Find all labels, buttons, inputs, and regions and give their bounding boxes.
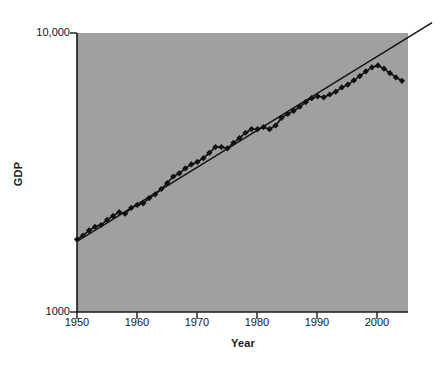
x-tick-marks: [77, 312, 377, 319]
plot-svg: [0, 0, 448, 367]
chart-container: GDP Year 10,000 1000 1950 1960 1970 1980…: [0, 0, 448, 367]
